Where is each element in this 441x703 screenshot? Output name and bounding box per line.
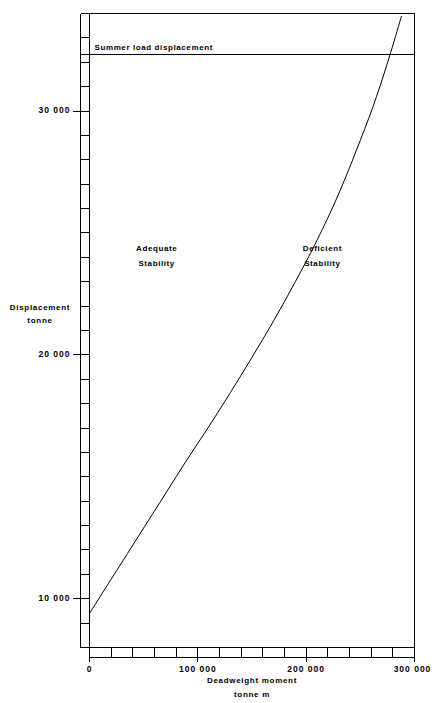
x-tick-label-100000: 100 000	[158, 664, 238, 674]
y-tick-label-30000: 30 000	[11, 105, 71, 115]
chart-canvas: 30 000 20 000 10 000 Displacement tonne …	[0, 0, 441, 703]
adequate-stability-label-line1: Adequate	[112, 244, 202, 253]
deficient-stability-label-line2: Stability	[277, 259, 367, 268]
y-tick-label-10000: 10 000	[11, 593, 71, 603]
x-tick-label-200000: 200 000	[266, 664, 346, 674]
x-axis-title: Deadweight moment	[182, 676, 322, 685]
y-axis-units: tonne	[4, 316, 76, 325]
y-axis-title: Displacement	[4, 303, 76, 312]
x-axis-units: tonne m	[182, 690, 322, 699]
stability-curve	[90, 16, 402, 613]
summer-load-displacement-label: Summer load displacement	[95, 43, 295, 52]
x-tick-label-0: 0	[50, 664, 130, 674]
stability-boundary-curve	[90, 16, 402, 613]
plot-frame	[81, 14, 415, 648]
deficient-stability-label-line1: Deficient	[277, 244, 367, 253]
x-tick-label-300000: 300 000	[373, 664, 441, 674]
y-tick-label-20000: 20 000	[11, 349, 71, 359]
x-axis	[90, 648, 415, 663]
adequate-stability-label-line2: Stability	[112, 259, 202, 268]
